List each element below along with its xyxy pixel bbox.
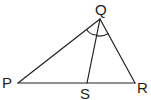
vertex-label-p: P [2, 74, 12, 91]
triangle-diagram: Q P R S [0, 0, 151, 100]
segment-qs [87, 19, 100, 83]
segment-qr [100, 19, 135, 83]
angle-arc-pqs [87, 30, 97, 36]
angle-arc-sqr [97, 34, 108, 36]
point-label-s: S [80, 85, 90, 100]
vertex-label-r: R [137, 79, 148, 96]
segment-pq [18, 19, 100, 83]
vertex-label-q: Q [95, 1, 107, 18]
